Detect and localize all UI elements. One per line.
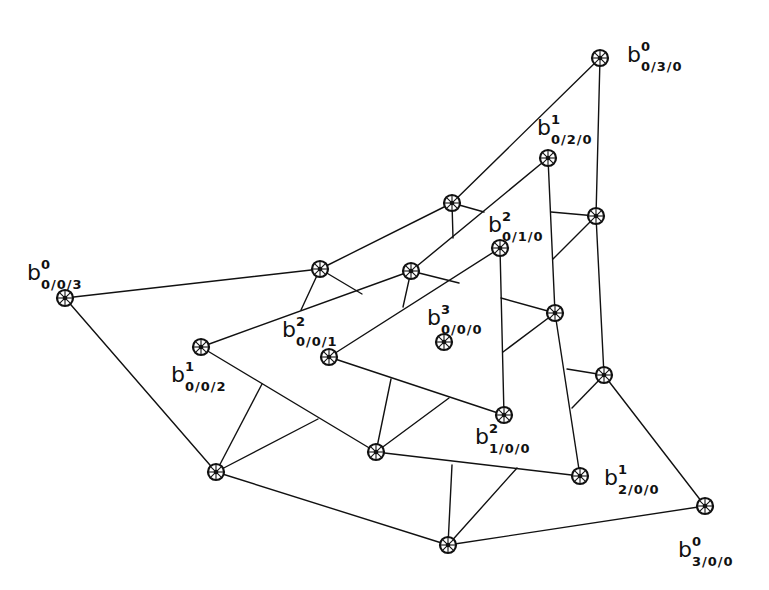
edge-line xyxy=(216,419,318,472)
svg-text:b: b xyxy=(171,362,185,387)
edge-line xyxy=(452,58,600,203)
edge-line xyxy=(329,357,504,415)
svg-text:0: 0 xyxy=(692,534,701,549)
svg-text:0/0/1: 0/0/1 xyxy=(296,334,338,349)
label-b0-030: b00/3/0 xyxy=(627,39,683,74)
label-b2-100: b21/0/0 xyxy=(475,421,531,456)
svg-text:b: b xyxy=(427,305,441,330)
label-b0-300: b03/0/0 xyxy=(678,534,734,569)
svg-text:0: 0 xyxy=(641,39,650,54)
control-point-o-ab1 xyxy=(312,261,328,277)
svg-text:0/3/0: 0/3/0 xyxy=(641,59,683,74)
svg-text:3: 3 xyxy=(441,302,450,317)
svg-text:2: 2 xyxy=(489,421,498,436)
control-point-o-ab2 xyxy=(444,195,460,211)
control-point-b0-300 xyxy=(697,498,713,514)
edge-line xyxy=(448,506,705,545)
edge-line xyxy=(448,465,452,545)
control-point-b1-200 xyxy=(572,468,588,484)
svg-text:b: b xyxy=(27,260,41,285)
edge-line xyxy=(376,379,391,452)
edge-line xyxy=(216,472,448,545)
control-point-m-1 xyxy=(403,263,419,279)
edge-line xyxy=(548,158,555,313)
svg-text:b: b xyxy=(537,115,551,140)
control-net-diagram: b00/3/0b10/2/0b20/1/0b00/0/3b20/0/1b30/0… xyxy=(0,0,769,590)
svg-text:b: b xyxy=(678,537,692,562)
control-point-m-3 xyxy=(368,444,384,460)
svg-text:0/0/2: 0/0/2 xyxy=(185,379,227,394)
svg-text:b: b xyxy=(627,42,641,67)
svg-text:b: b xyxy=(488,212,502,237)
svg-text:1: 1 xyxy=(185,359,194,374)
control-point-o-ca2 xyxy=(208,464,224,480)
edge-line xyxy=(555,313,580,476)
control-point-o-bc2 xyxy=(596,367,612,383)
svg-text:b: b xyxy=(282,317,296,342)
edge-line xyxy=(411,158,548,271)
svg-text:2/0/0: 2/0/0 xyxy=(618,482,660,497)
control-point-m-2 xyxy=(547,305,563,321)
label-b0-003: b00/0/3 xyxy=(27,257,83,292)
edge-line xyxy=(596,216,604,375)
svg-text:1/0/0: 1/0/0 xyxy=(489,441,531,456)
svg-text:0/0/0: 0/0/0 xyxy=(441,322,483,337)
control-point-o-bc1 xyxy=(588,208,604,224)
label-b2-010: b20/1/0 xyxy=(488,209,544,244)
edge-line xyxy=(376,398,449,452)
label-layer: b00/3/0b10/2/0b20/1/0b00/0/3b20/0/1b30/0… xyxy=(27,39,734,569)
edge-line xyxy=(201,347,376,452)
label-b3-000: b30/0/0 xyxy=(427,302,483,337)
control-point-b2-001 xyxy=(321,349,337,365)
control-point-b0-003 xyxy=(57,290,73,306)
svg-text:2: 2 xyxy=(296,314,305,329)
svg-text:1: 1 xyxy=(618,462,627,477)
svg-text:0/2/0: 0/2/0 xyxy=(551,132,593,147)
svg-text:0/1/0: 0/1/0 xyxy=(502,229,544,244)
edge-line xyxy=(65,269,320,298)
edge-line xyxy=(376,452,580,476)
svg-text:b: b xyxy=(604,465,618,490)
svg-text:b: b xyxy=(475,424,489,449)
label-b1-002: b10/0/2 xyxy=(171,359,227,394)
control-point-b2-100 xyxy=(496,407,512,423)
edge-line xyxy=(553,216,596,259)
svg-text:1: 1 xyxy=(551,112,560,127)
svg-text:2: 2 xyxy=(502,209,511,224)
edge-line xyxy=(500,248,504,415)
svg-text:3/0/0: 3/0/0 xyxy=(692,554,734,569)
edge-line xyxy=(503,313,555,352)
control-point-b1-020 xyxy=(540,150,556,166)
control-point-b0-030 xyxy=(592,50,608,66)
edge-line xyxy=(596,58,600,216)
label-b2-001: b20/0/1 xyxy=(282,314,338,349)
svg-text:0: 0 xyxy=(41,257,50,272)
edge-line xyxy=(320,203,452,269)
edge-line xyxy=(448,468,517,545)
control-point-b1-002 xyxy=(193,339,209,355)
label-b1-200: b12/0/0 xyxy=(604,462,660,497)
label-b1-020: b10/2/0 xyxy=(537,112,593,147)
svg-text:0/0/3: 0/0/3 xyxy=(41,277,83,292)
edge-line xyxy=(216,384,262,472)
control-point-o-ca1 xyxy=(440,537,456,553)
